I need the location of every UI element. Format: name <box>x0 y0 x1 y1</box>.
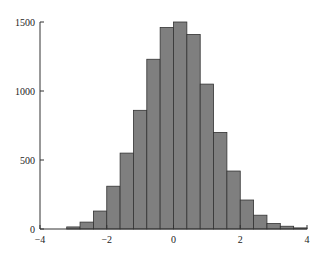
x-tick-label: 0 <box>171 234 176 245</box>
y-tick-label: 1500 <box>15 17 35 28</box>
histogram-bar <box>133 110 146 229</box>
histogram-bar <box>200 84 213 229</box>
histogram-bar <box>214 132 227 229</box>
histogram-bar <box>80 222 93 229</box>
histogram-bar <box>254 215 267 229</box>
histogram-bar <box>227 171 240 229</box>
histogram-bar <box>120 153 133 229</box>
histogram-bar <box>174 22 187 229</box>
histogram-bar <box>93 211 106 229</box>
histogram-chart: 050010001500 −4−2024 <box>0 0 323 256</box>
y-tick-label: 500 <box>20 155 35 166</box>
histogram-bars <box>67 22 307 229</box>
x-tick-label: −2 <box>101 234 112 245</box>
histogram-bar <box>240 200 253 229</box>
y-tick-label: 1000 <box>15 86 35 97</box>
histogram-bar <box>160 28 173 229</box>
histogram-bar <box>187 34 200 229</box>
histogram-bar <box>147 59 160 229</box>
x-tick-label: 4 <box>305 234 310 245</box>
y-tick-label: 0 <box>30 224 35 235</box>
x-tick-label: −4 <box>35 234 46 245</box>
histogram-bar <box>107 186 120 229</box>
histogram-bar <box>267 223 280 229</box>
x-tick-label: 2 <box>238 234 243 245</box>
